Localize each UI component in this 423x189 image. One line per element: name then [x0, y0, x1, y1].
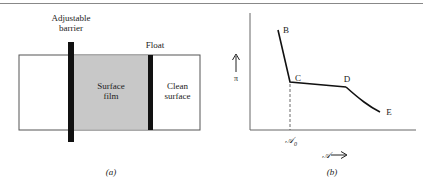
a0-symbol: 𝒜: [285, 135, 294, 145]
x-axis-label-a: 𝒜: [320, 150, 332, 160]
point-b-label: B: [280, 25, 292, 35]
y-axis-label-pi: π: [230, 74, 242, 84]
isotherm-bcd: [278, 30, 346, 87]
isotherm-de: [346, 87, 380, 112]
a0-subscript: 0: [294, 141, 297, 147]
point-d-label: D: [341, 74, 353, 84]
figure-b-isotherm: [0, 0, 423, 189]
x-tick-a0: 𝒜0: [281, 135, 301, 149]
caption-b: (b): [317, 167, 347, 177]
point-c-label: C: [292, 73, 304, 83]
point-e-label: E: [383, 107, 395, 117]
